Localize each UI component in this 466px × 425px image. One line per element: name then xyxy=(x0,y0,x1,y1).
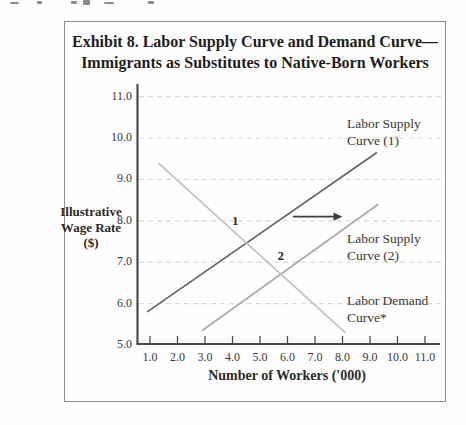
shift-right-arrow-head xyxy=(334,212,343,220)
curve-label-labor-supply-curve-1-: Labor SupplyCurve (1) xyxy=(347,115,421,149)
x-tick-label-3.0: 3.0 xyxy=(198,350,213,365)
y-tick-label-11.0: 11.0 xyxy=(98,89,132,104)
x-tick-label-5.0: 5.0 xyxy=(253,350,268,365)
x-tick-label-6.0: 6.0 xyxy=(280,350,295,365)
point-label-1: 1 xyxy=(232,213,239,229)
y-tick-label-8.0: 8.0 xyxy=(98,213,132,228)
x-axis-title: Number of Workers ('000) xyxy=(177,368,397,384)
y-tick-label-10.0: 10.0 xyxy=(98,130,132,145)
x-tick-label-1.0: 1.0 xyxy=(143,350,158,365)
x-tick-label-2.0: 2.0 xyxy=(170,350,185,365)
y-tick-label-7.0: 7.0 xyxy=(98,254,132,269)
x-tick-label-4.0: 4.0 xyxy=(225,350,240,365)
y-tick-label-9.0: 9.0 xyxy=(98,171,132,186)
point-label-2: 2 xyxy=(277,248,284,264)
x-tick-label-9.0: 9.0 xyxy=(363,350,378,365)
y-tick-label-5.0: 5.0 xyxy=(98,337,132,352)
x-tick-label-7.0: 7.0 xyxy=(308,350,323,365)
x-tick-label-8.0: 8.0 xyxy=(335,350,350,365)
curve-label-labor-demand-curve-: Labor DemandCurve* xyxy=(347,292,428,326)
y-tick-label-6.0: 6.0 xyxy=(98,296,132,311)
document-page: Exhibit 8. Labor Supply Curve and Demand… xyxy=(0,0,466,425)
y-axis-title-line: ($) xyxy=(48,235,134,251)
curve-label-labor-supply-curve-2-: Labor SupplyCurve (2) xyxy=(347,230,421,264)
x-tick-label-10.0: 10.0 xyxy=(387,350,408,365)
x-tick-label-11.0: 11.0 xyxy=(415,350,436,365)
